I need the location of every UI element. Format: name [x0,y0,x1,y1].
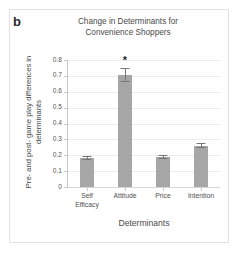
x-tick-label-line: Efficacy [64,201,110,210]
error-bar-cap-top [83,156,92,157]
y-tick-mark [64,108,67,109]
x-tick-mark [125,188,126,191]
y-tick-label: 0.7 [38,72,62,79]
y-tick-label: 0.3 [38,136,62,143]
x-tick-label-line: Intention [178,192,224,201]
chart-title-line-1: Change in Determinants for [38,16,218,27]
y-tick-mark [64,124,67,125]
panel-label: b [13,15,21,28]
y-tick-mark [64,92,67,93]
y-tick-mark [64,187,67,188]
error-bar-cap-top [121,68,130,69]
error-bar-cap-bottom [159,158,168,159]
bar[interactable] [156,157,170,187]
y-tick-label: 0 [38,184,62,191]
y-tick-mark [64,155,67,156]
y-axis-title-line-1: Pre- and post- game play differences in [24,47,34,197]
y-tick-label: 0.5 [38,104,62,111]
y-tick-label: 0.1 [38,168,62,175]
error-bar [159,155,168,159]
error-bar [121,68,130,81]
error-bar-line [125,68,126,81]
y-tick-label: 0.4 [38,120,62,127]
x-tick-mark [163,188,164,191]
error-bar-cap-bottom [83,159,92,160]
bar-group[interactable]: * [106,60,144,187]
y-tick-label: 0.6 [38,88,62,95]
y-tick-mark [64,60,67,61]
y-tick-mark [64,171,67,172]
significance-marker: * [123,55,127,66]
bar-group[interactable] [68,60,106,187]
error-bar [83,156,92,160]
x-tick-label: Intention [178,192,224,201]
y-tick-label: 0.2 [38,152,62,159]
y-tick-mark [64,76,67,77]
x-axis-title: Determinants [68,219,220,228]
y-tick-mark [64,139,67,140]
error-bar-cap-top [159,155,168,156]
y-tick-label: 0.8 [38,57,62,64]
bar-group[interactable] [182,60,220,187]
error-bar-cap-top [197,143,206,144]
error-bar-cap-bottom [197,147,206,148]
y-axis-tick-labels: 0.80.70.60.50.40.30.20.10 [36,0,62,256]
chart-title: Change in Determinants for Convenience S… [38,16,218,38]
x-axis-tick-labels: SelfEfficacyAttitudePriceIntention [68,192,220,218]
bar[interactable] [118,75,132,187]
plot-area: * [68,60,220,187]
error-bar-cap-bottom [121,81,130,82]
bar-group[interactable] [144,60,182,187]
error-bar [197,143,206,148]
bar[interactable] [194,146,208,187]
bar[interactable] [80,158,94,187]
gridline [68,187,220,188]
chart-title-line-2: Convenience Shoppers [38,27,218,38]
x-tick-mark [201,188,202,191]
x-tick-mark [87,188,88,191]
